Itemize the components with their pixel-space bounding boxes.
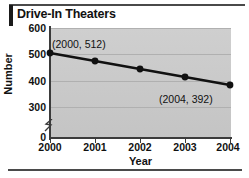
data-point-2001 bbox=[92, 58, 99, 65]
data-point-2000 bbox=[47, 50, 54, 57]
data-point-2003 bbox=[182, 74, 189, 81]
x-tick-label-2003: 2003 bbox=[165, 141, 205, 153]
x-tick-label-2000: 2000 bbox=[30, 141, 70, 153]
y-tick-label-600: 600 bbox=[20, 23, 46, 34]
data-point-2002 bbox=[137, 66, 144, 73]
y-tick-label-500: 500 bbox=[20, 49, 46, 60]
y-tick-label-400: 400 bbox=[20, 76, 46, 87]
x-tick-label-2001: 2001 bbox=[75, 141, 115, 153]
annotation-first-point: (2000, 512) bbox=[52, 38, 106, 50]
top-rule bbox=[9, 4, 245, 6]
data-point-2004 bbox=[227, 82, 234, 89]
x-tick-label-2002: 2002 bbox=[120, 141, 160, 153]
bottom-rule bbox=[8, 169, 242, 171]
title-accent-bar bbox=[9, 5, 13, 26]
y-tick-label-500-wrap: 500 bbox=[18, 49, 46, 60]
annotation-last-point: (2004, 392) bbox=[159, 93, 213, 105]
y-tick-label-400-wrap: 400 bbox=[18, 76, 46, 87]
y-tick-label-300-wrap: 300 bbox=[18, 102, 46, 113]
x-axis-title: Year bbox=[50, 155, 231, 167]
y-tick-label-300: 300 bbox=[20, 102, 46, 113]
y-axis-title: Number bbox=[2, 44, 14, 104]
y-tick-label-600-wrap: 600 bbox=[18, 23, 46, 34]
chart-figure: Drive-In Theaters 600 500 400 300 0 2000… bbox=[0, 0, 249, 178]
x-tick-label-2004: 2004 bbox=[208, 141, 248, 153]
chart-title: Drive-In Theaters bbox=[17, 7, 116, 22]
